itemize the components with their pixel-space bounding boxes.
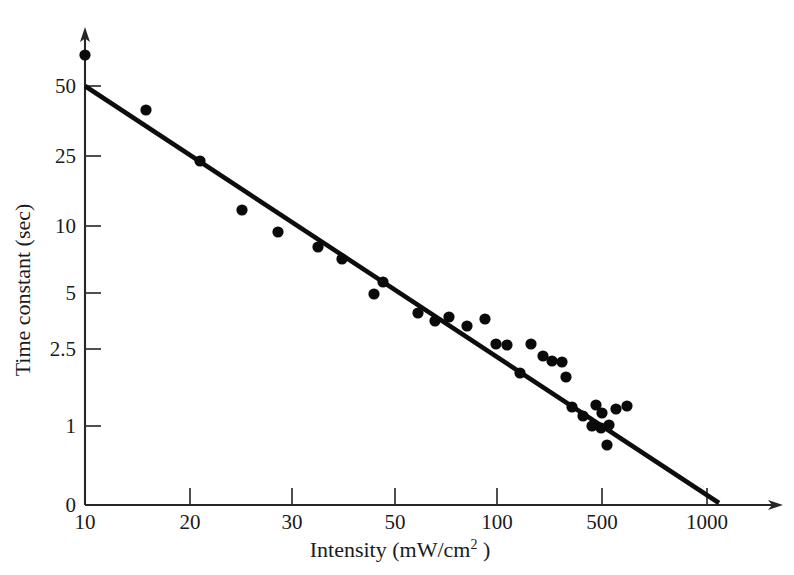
x-tick-label: 1000 bbox=[686, 510, 728, 534]
regression-line-segment bbox=[85, 86, 719, 503]
data-point bbox=[556, 356, 567, 367]
y-axis-title: Time constant (sec) bbox=[10, 204, 35, 377]
data-point bbox=[514, 367, 525, 378]
data-point bbox=[194, 155, 205, 166]
data-point bbox=[490, 338, 501, 349]
data-point bbox=[596, 407, 607, 418]
regression-line bbox=[85, 86, 719, 503]
data-point bbox=[312, 241, 323, 252]
y-tick-label: 10 bbox=[55, 214, 76, 238]
data-point bbox=[79, 49, 90, 60]
data-point bbox=[336, 253, 347, 264]
chart-figure: 50251052.510 102030501005001000 Intensit… bbox=[0, 0, 794, 575]
x-tick-label: 100 bbox=[481, 510, 513, 534]
x-tick-label: 500 bbox=[586, 510, 618, 534]
x-tick-label: 30 bbox=[282, 510, 303, 534]
data-point bbox=[272, 226, 283, 237]
x-axis-title: Intensity (mW/cm2 ) bbox=[310, 537, 491, 562]
data-point bbox=[603, 419, 614, 430]
x-axis-ticks: 102030501005001000 bbox=[75, 488, 729, 534]
data-point bbox=[412, 307, 423, 318]
data-point bbox=[461, 320, 472, 331]
x-tick-label: 10 bbox=[75, 510, 96, 534]
data-point bbox=[443, 311, 454, 322]
data-point bbox=[610, 403, 621, 414]
data-point bbox=[566, 401, 577, 412]
y-axis-ticks: 50251052.510 bbox=[50, 74, 101, 517]
data-point bbox=[501, 339, 512, 350]
data-point bbox=[236, 204, 247, 215]
y-tick-label: 1 bbox=[66, 414, 77, 438]
data-point bbox=[577, 410, 588, 421]
y-tick-label: 2.5 bbox=[50, 337, 76, 361]
data-point bbox=[368, 288, 379, 299]
scatter-plot: 50251052.510 102030501005001000 Intensit… bbox=[0, 0, 794, 575]
data-point bbox=[140, 104, 151, 115]
data-point bbox=[377, 276, 388, 287]
y-tick-label: 5 bbox=[66, 281, 77, 305]
data-point bbox=[525, 338, 536, 349]
data-point bbox=[479, 313, 490, 324]
data-point bbox=[429, 315, 440, 326]
x-tick-label: 50 bbox=[385, 510, 406, 534]
y-tick-label: 25 bbox=[55, 144, 76, 168]
data-point bbox=[560, 371, 571, 382]
data-point bbox=[601, 439, 612, 450]
data-point bbox=[546, 355, 557, 366]
data-point bbox=[621, 400, 632, 411]
y-tick-label: 50 bbox=[55, 74, 76, 98]
x-tick-label: 20 bbox=[180, 510, 201, 534]
